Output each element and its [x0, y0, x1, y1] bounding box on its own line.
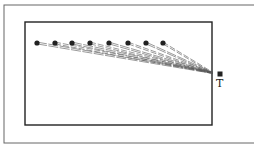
ray-line	[55, 42, 213, 72]
target-label: T	[216, 77, 223, 90]
diagram-canvas	[0, 0, 254, 149]
source-dot-icon	[34, 40, 39, 45]
ray-line	[72, 44, 213, 74]
source-dot-icon	[87, 40, 92, 45]
ray-line	[90, 44, 213, 74]
source-dot-icon	[143, 40, 148, 45]
ray-line	[55, 44, 213, 74]
source-dot-icon	[69, 40, 74, 45]
outer-frame	[4, 5, 254, 143]
source-dot-icon	[125, 40, 130, 45]
source-dot-icon	[52, 40, 57, 45]
inner-rectangle	[25, 22, 212, 125]
rays-group	[37, 42, 213, 73]
source-dot-icon	[160, 40, 165, 45]
ray-line	[72, 42, 213, 72]
target-square-icon	[218, 72, 223, 77]
source-dot-icon	[106, 40, 111, 45]
